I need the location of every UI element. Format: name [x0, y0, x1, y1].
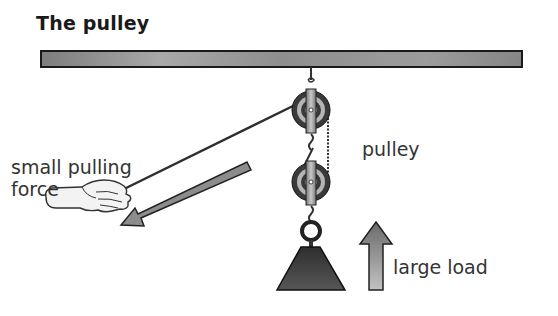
large-load-label: large load	[393, 256, 488, 278]
small-pulling-force-line1: small pulling	[11, 156, 132, 178]
ceiling-beam	[41, 51, 522, 67]
link-hook-icon	[309, 134, 313, 150]
load-lift-arrow	[360, 222, 392, 290]
load-weight	[277, 222, 345, 290]
upper-hook-icon	[308, 67, 314, 82]
small-pulling-force-line2: force	[11, 178, 132, 200]
lower-hook-icon	[309, 206, 313, 222]
pull-direction-arrow	[121, 162, 251, 226]
upper-pulley	[292, 89, 330, 133]
small-pulling-force-label: small pulling force	[11, 156, 132, 200]
lower-pulley	[292, 161, 330, 205]
pulley-label: pulley	[362, 138, 420, 160]
